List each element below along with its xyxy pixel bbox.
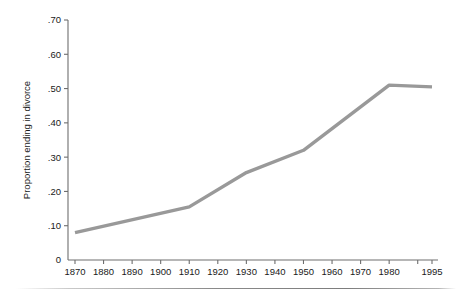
- x-tick-label-9: 1960: [321, 266, 342, 277]
- y-tick-label-1: .10: [48, 220, 61, 231]
- y-tick-label-6: .60: [48, 49, 61, 60]
- x-tick-label-5: 1920: [207, 266, 228, 277]
- x-tick-label-11: 1980: [379, 266, 400, 277]
- x-tick-label-10: 1970: [350, 266, 371, 277]
- divorce-proportion-chart: 0.10.20.30.40.50.60.70187018801890190019…: [0, 0, 462, 296]
- y-tick-label-7: .70: [48, 14, 61, 25]
- x-tick-label-7: 1940: [264, 266, 285, 277]
- x-tick-label-1: 1880: [93, 266, 114, 277]
- x-tick-label-6: 1930: [236, 266, 257, 277]
- x-tick-label-8: 1950: [293, 266, 314, 277]
- x-tick-label-4: 1910: [179, 266, 200, 277]
- y-tick-label-3: .30: [48, 152, 61, 163]
- y-axis-title: Proportion ending in divorce: [21, 81, 32, 199]
- y-tick-label-4: .40: [48, 117, 61, 128]
- x-tick-label-2: 1890: [122, 266, 143, 277]
- y-tick-label-0: 0: [56, 254, 61, 265]
- x-tick-label-0: 1870: [64, 266, 85, 277]
- chart-canvas: 0.10.20.30.40.50.60.70187018801890190019…: [0, 0, 462, 296]
- y-tick-label-5: .50: [48, 83, 61, 94]
- data-line-divorce-proportion: [75, 85, 432, 232]
- x-tick-label-3: 1900: [150, 266, 171, 277]
- x-tick-label-13: 1995: [421, 266, 442, 277]
- y-tick-label-2: .20: [48, 186, 61, 197]
- bottom-divider: [16, 288, 456, 289]
